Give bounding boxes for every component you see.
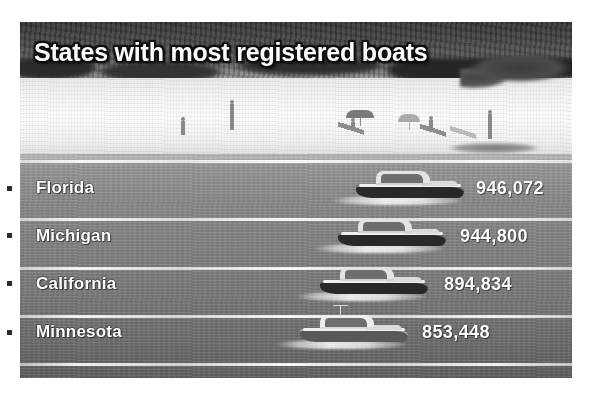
bullet-marker-4: [7, 330, 12, 335]
person-body: [488, 114, 492, 139]
person-body: [351, 122, 355, 130]
state-label-4: Minnesota: [36, 322, 122, 342]
beach-umbrella-1: [346, 110, 374, 118]
value-label-3: 894,834: [444, 274, 512, 295]
boat-windshield: [381, 174, 423, 183]
boat-icon-4: [300, 315, 408, 349]
beach-umbrella-2: [398, 114, 420, 122]
bullet-marker-1: [7, 186, 12, 191]
infographic-root: States with most registered boats Florid…: [0, 0, 591, 407]
bullet-marker-column: [0, 0, 20, 407]
boat-mast: [340, 305, 341, 316]
beach-person-1: [180, 117, 186, 137]
boat-icon-1: [356, 171, 464, 205]
data-row-michigan: Michigan 944,800: [20, 220, 572, 266]
value-label-2: 944,800: [460, 226, 528, 247]
data-row-minnesota: Minnesota 853,448: [20, 316, 572, 362]
data-row-florida: Florida 946,072: [20, 172, 572, 218]
wave-line-4: [20, 363, 572, 366]
infographic-photo: States with most registered boats Florid…: [20, 22, 572, 378]
beach-person-5: [486, 110, 493, 142]
beach-person-2: [228, 100, 235, 134]
beach-person-3: [350, 118, 356, 130]
state-label-1: Florida: [36, 178, 94, 198]
person-body: [230, 104, 234, 130]
wave-line-0: [20, 160, 572, 163]
bullet-marker-2: [7, 233, 12, 238]
state-label-2: Michigan: [36, 226, 111, 246]
person-body: [181, 121, 185, 135]
headland-rock: [460, 56, 572, 96]
value-label-4: 853,448: [422, 322, 490, 343]
boat-windshield: [345, 270, 387, 279]
boat-windshield: [325, 318, 367, 327]
boat-icon-3: [320, 267, 428, 301]
person-body: [429, 120, 433, 130]
data-row-california: California 894,834: [20, 268, 572, 314]
boat-icon-2: [338, 219, 446, 253]
bullet-marker-3: [7, 281, 12, 286]
state-label-3: California: [36, 274, 116, 294]
boat-windshield: [363, 222, 405, 231]
beach-person-4: [428, 116, 434, 130]
value-label-1: 946,072: [476, 178, 544, 199]
beach-lounger-3: [450, 126, 476, 139]
page-title: States with most registered boats: [34, 38, 428, 67]
